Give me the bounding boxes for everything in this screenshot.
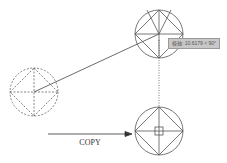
polar-tooltip: 极轴: 10.6179 < 90°	[168, 38, 220, 49]
rubber-band-line	[34, 34, 159, 92]
result-object	[135, 107, 183, 155]
copy-arrow	[48, 132, 132, 137]
copy-label: COPY	[60, 138, 120, 147]
